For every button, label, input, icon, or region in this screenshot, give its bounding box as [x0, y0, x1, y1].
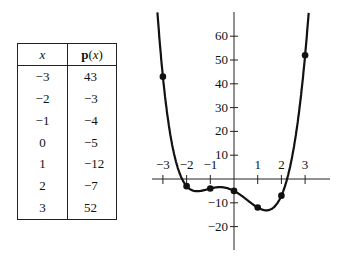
curve-px: [157, 12, 308, 210]
y-tick-label: 10: [215, 147, 228, 162]
x-tick-label: −2: [180, 157, 194, 172]
data-point: [278, 192, 285, 199]
data-point: [254, 204, 261, 211]
axes: [152, 12, 330, 250]
x-tick-label: −3: [156, 157, 170, 172]
data-point: [231, 188, 238, 195]
y-tick-label: 50: [215, 52, 228, 67]
polynomial-plot: −3−2−1123605040302010−10−20: [0, 0, 340, 266]
y-tick-label: 20: [215, 123, 228, 138]
x-tick-label: 2: [278, 157, 285, 172]
y-tick-label: 60: [215, 28, 228, 43]
y-tick-label: 40: [215, 76, 228, 91]
x-tick-label: 3: [302, 157, 309, 172]
data-point: [207, 185, 214, 192]
data-point: [160, 73, 167, 80]
y-tick-label: −10: [208, 195, 228, 210]
data-point: [302, 52, 309, 59]
data-point: [183, 183, 190, 190]
y-tick-label: 30: [215, 100, 228, 115]
y-tick-label: −20: [208, 219, 228, 234]
x-tick-label: 1: [254, 157, 261, 172]
